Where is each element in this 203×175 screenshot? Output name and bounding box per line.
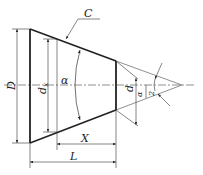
leader-C: [66, 19, 100, 39]
cone-taper-diagram: D dx α d α 2 X L C: [0, 0, 203, 175]
label-D: D: [5, 81, 18, 91]
label-alpha: α: [61, 74, 69, 87]
label-half-alpha-den: 2: [147, 91, 156, 97]
half-angle-indicator: [146, 63, 170, 106]
label-L: L: [69, 150, 77, 163]
label-d: d: [123, 85, 136, 92]
label-dx: dx: [36, 82, 50, 94]
label-half-alpha-num: α: [135, 91, 144, 97]
label-C: C: [84, 7, 93, 20]
label-X: X: [80, 132, 90, 145]
